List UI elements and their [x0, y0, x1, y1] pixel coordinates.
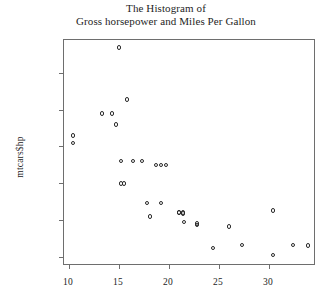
data-point	[140, 159, 145, 164]
data-point	[119, 159, 124, 164]
data-point	[154, 163, 159, 168]
data-point	[119, 181, 124, 186]
data-point	[148, 214, 153, 219]
data-point	[291, 243, 296, 248]
data-point	[125, 97, 130, 102]
chart-title-line-1: The Histogram of	[0, 2, 332, 15]
data-point	[271, 208, 276, 213]
data-points-layer	[64, 40, 314, 264]
chart-title-block: The Histogram of Gross horsepower and Mi…	[0, 2, 332, 28]
data-point	[159, 201, 164, 206]
data-point	[195, 221, 200, 226]
data-point	[182, 220, 187, 225]
y-tick-mark	[59, 146, 64, 147]
data-point	[114, 122, 119, 127]
data-point	[211, 246, 216, 251]
y-axis-title: mtcars$hp	[15, 117, 25, 197]
x-tick-mark	[219, 264, 220, 269]
data-point	[306, 243, 311, 248]
scatter-plot-figure: The Histogram of Gross horsepower and Mi…	[0, 0, 332, 294]
data-point	[164, 163, 169, 168]
x-tick-label: 20	[148, 277, 188, 287]
x-tick-mark	[269, 264, 270, 269]
x-tick-mark	[169, 264, 170, 269]
data-point	[117, 45, 122, 50]
plot-area	[63, 39, 315, 265]
y-tick-mark	[59, 73, 64, 74]
data-point	[131, 159, 136, 164]
x-tick-label: 25	[198, 277, 238, 287]
x-tick-label: 10	[48, 277, 88, 287]
data-point	[100, 111, 105, 116]
data-point	[181, 211, 186, 216]
y-tick-mark	[59, 257, 64, 258]
data-point	[71, 133, 76, 138]
data-point	[271, 253, 276, 258]
x-tick-mark	[69, 264, 70, 269]
data-point	[159, 163, 164, 168]
data-point	[110, 111, 115, 116]
y-tick-mark	[59, 183, 64, 184]
data-point	[227, 224, 232, 229]
y-tick-mark	[59, 220, 64, 221]
x-tick-mark	[119, 264, 120, 269]
y-tick-mark	[59, 110, 64, 111]
data-point	[145, 201, 150, 206]
x-tick-label: 30	[248, 277, 288, 287]
data-point	[240, 243, 245, 248]
x-tick-label: 15	[98, 277, 138, 287]
chart-title-line-2: Gross horsepower and Miles Per Gallon	[0, 15, 332, 28]
data-point	[71, 141, 76, 146]
